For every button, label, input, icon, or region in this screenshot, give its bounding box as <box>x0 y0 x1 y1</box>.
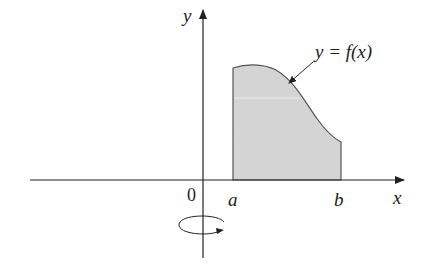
curve-label: y = f(x) <box>313 41 372 63</box>
upper-bound-label-b: b <box>334 189 344 210</box>
diagram-canvas: y x 0 a b y = f(x) <box>0 0 424 273</box>
y-axis-label: y <box>181 5 192 26</box>
lower-bound-label-a: a <box>228 189 238 210</box>
origin-label: 0 <box>187 185 196 205</box>
shaded-region <box>233 65 341 180</box>
rotation-icon <box>179 216 224 234</box>
curve-pointer-arrow <box>289 62 313 83</box>
x-axis-label: x <box>392 187 402 208</box>
